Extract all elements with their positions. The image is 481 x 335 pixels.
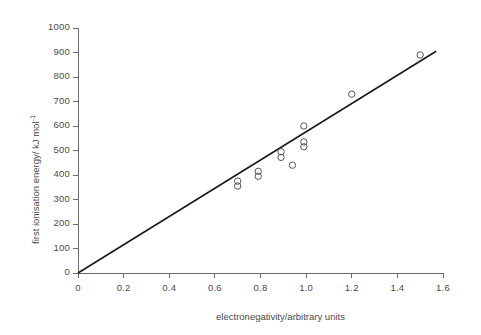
data-point-marker — [301, 144, 307, 150]
x-axis-tick-label: 0.6 — [195, 282, 235, 293]
trendline-path — [78, 51, 436, 273]
y-axis-tick-label: 500 — [26, 144, 70, 155]
trendline — [78, 51, 436, 273]
y-axis-tick-label: 1000 — [26, 21, 70, 32]
data-point-marker — [234, 183, 240, 189]
x-axis-tick-label: 1.4 — [377, 282, 417, 293]
y-axis-tick-label: 700 — [26, 95, 70, 106]
chart-figure: first ionisation energy/ kJ mol-1 electr… — [0, 0, 481, 335]
x-axis-label: electronegativity/arbitrary units — [40, 311, 481, 322]
data-point-marker — [301, 123, 307, 129]
x-axis-tick-label: 1.0 — [286, 282, 326, 293]
x-axis-tick-label: 0.4 — [149, 282, 189, 293]
x-axis-tick-label: 0 — [58, 282, 98, 293]
y-axis-tick-label: 0 — [26, 266, 70, 277]
y-axis-tick-label: 300 — [26, 193, 70, 204]
x-axis-tick-label: 0.2 — [104, 282, 144, 293]
x-axis-tick-label: 1.6 — [423, 282, 463, 293]
y-axis-tick-label: 800 — [26, 70, 70, 81]
x-axis-label-text: electronegativity/arbitrary units — [216, 311, 345, 322]
y-axis-tick-label: 200 — [26, 217, 70, 228]
data-point-marker — [349, 91, 355, 97]
y-axis-tick-label: 100 — [26, 242, 70, 253]
y-axis-tick-label: 600 — [26, 119, 70, 130]
data-point-marker — [417, 52, 423, 58]
data-point-marker — [255, 173, 261, 179]
axes — [73, 28, 443, 278]
data-point-marker — [289, 162, 295, 168]
data-points — [234, 52, 423, 189]
y-axis-tick-label: 900 — [26, 46, 70, 57]
x-axis-tick-label: 0.8 — [241, 282, 281, 293]
x-axis-tick-label: 1.2 — [332, 282, 372, 293]
y-axis-tick-label: 400 — [26, 168, 70, 179]
